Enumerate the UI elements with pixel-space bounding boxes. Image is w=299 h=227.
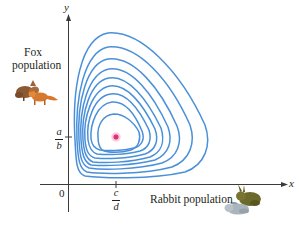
x-tick-numerator: c: [114, 188, 119, 199]
x-axis-name: x: [289, 178, 294, 189]
y-tick-numerator: a: [56, 127, 61, 138]
y-axis-arrow-icon: [66, 14, 71, 21]
origin-label: 0: [59, 188, 65, 199]
equilibrium-point: [111, 132, 121, 142]
y-axis-name: y: [64, 2, 69, 13]
y-tick-label-a-over-b: a b: [55, 127, 63, 151]
phase-plane-figure: y x Fox population Rabbit population 0 c…: [0, 0, 299, 227]
x-tick-denominator: d: [113, 202, 118, 213]
fox-label-line2: population: [12, 59, 54, 72]
fox-illustration: [15, 80, 58, 105]
rabbit-population-label: Rabbit population: [150, 193, 233, 206]
trajectory-curves: [74, 33, 207, 178]
x-axis-arrow-icon: [281, 182, 288, 187]
fox-label-line1: Fox: [12, 46, 54, 59]
x-tick-label-c-over-d: c d: [112, 188, 120, 212]
fox-population-label: Fox population: [12, 46, 54, 72]
y-tick-denominator: b: [56, 141, 61, 152]
